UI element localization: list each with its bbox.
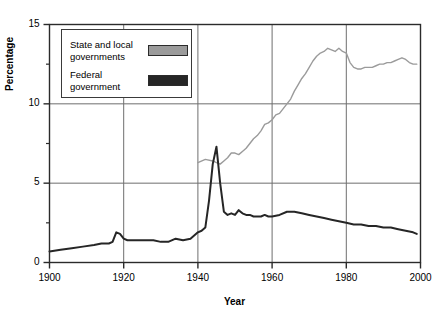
- legend-item-federal: Federal government: [70, 69, 188, 92]
- x-axis-title: Year: [49, 296, 420, 307]
- legend-swatch-federal: [148, 75, 188, 86]
- legend-label-state-local-line2: governments: [70, 51, 125, 62]
- chart-legend: State and local governments Federal gove…: [61, 29, 192, 98]
- y-tick-label: 10: [10, 97, 40, 108]
- x-tick-label: 1980: [326, 272, 366, 283]
- legend-label-state-local-line1: State and local: [70, 39, 133, 50]
- legend-label-federal: Federal government: [70, 69, 142, 92]
- x-tick-label: 1920: [104, 272, 144, 283]
- legend-swatch-state-local: [148, 45, 188, 56]
- chart-figure: Percentage Year State and local governme…: [0, 0, 447, 316]
- legend-label-federal-line1: Federal: [70, 69, 102, 80]
- x-tick-label: 2000: [401, 272, 441, 283]
- x-tick-label: 1900: [30, 272, 70, 283]
- y-tick-label: 0: [10, 256, 40, 267]
- legend-item-state-local: State and local governments: [70, 39, 188, 62]
- y-tick-label: 5: [10, 176, 40, 187]
- legend-label-federal-line2: government: [70, 81, 120, 92]
- x-tick-label: 1960: [252, 272, 292, 283]
- x-tick-label: 1940: [178, 272, 218, 283]
- legend-label-state-local: State and local governments: [70, 39, 142, 62]
- y-tick-label: 15: [10, 18, 40, 29]
